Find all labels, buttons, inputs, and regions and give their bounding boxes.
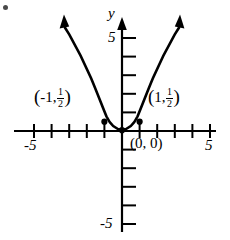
y-axis-label: y (108, 6, 115, 21)
y-axis-ticks-positive (122, 38, 136, 112)
y-tick-label-5: 5 (108, 30, 116, 45)
y-tick-label-neg5: -5 (100, 216, 113, 231)
point-label-right-open-paren: ( (148, 86, 154, 107)
marked-point-vertex (119, 127, 125, 133)
marked-point-right (137, 119, 143, 125)
y-axis-arrowhead-icon (117, 17, 127, 30)
y-axis-ticks-negative (122, 150, 136, 224)
x-tick-label-neg5: -5 (24, 138, 37, 153)
point-label-left: (-1,12) (34, 86, 71, 109)
marked-point-left (101, 119, 107, 125)
right-branch-arrowhead-icon (175, 15, 185, 29)
point-label-right-x: 1, (154, 89, 165, 105)
point-label-left-numerator: 1 (57, 87, 64, 97)
point-label-left-open-paren: ( (34, 86, 40, 107)
x-tick-label-5: 5 (205, 138, 213, 153)
point-label-left-x: -1, (40, 89, 56, 105)
point-label-right: (1,12) (148, 86, 180, 109)
point-label-left-close-paren: ) (65, 86, 71, 107)
point-label-right-numerator: 1 (166, 87, 173, 97)
parabola-figure: y 5 -5 -5 5 (-1,12) (1,12) (0, 0) (0, 0, 230, 240)
point-label-right-denominator: 2 (166, 98, 173, 109)
point-label-origin: (0, 0) (130, 136, 163, 151)
left-branch-arrowhead-icon (60, 15, 70, 29)
point-label-left-denominator: 2 (57, 98, 64, 109)
point-label-right-fraction: 12 (166, 87, 173, 108)
point-label-right-close-paren: ) (174, 86, 180, 107)
point-label-left-fraction: 12 (57, 87, 64, 108)
